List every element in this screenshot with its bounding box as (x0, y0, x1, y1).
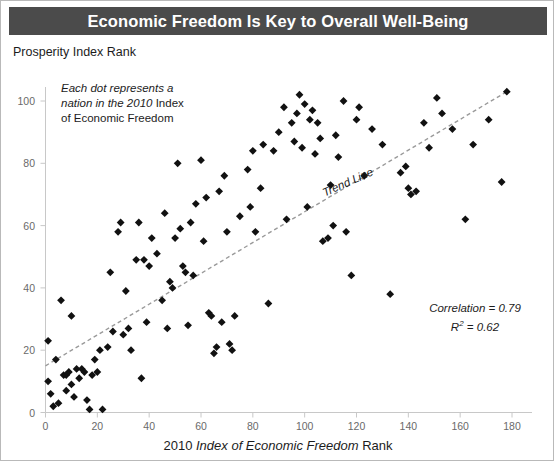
data-point (215, 187, 223, 195)
data-point (288, 119, 296, 127)
data-point (187, 219, 195, 227)
data-point (386, 290, 394, 298)
data-point (137, 374, 145, 382)
data-point (171, 234, 179, 242)
data-point (223, 228, 231, 236)
data-point (397, 169, 405, 177)
data-point (96, 346, 104, 354)
data-point (135, 219, 143, 227)
data-point (280, 103, 288, 111)
data-point (438, 110, 446, 118)
x-axis-label: 2010 Index of Economic Freedom Rank (1, 438, 554, 453)
x-axis-label-italic: Index of Economic Freedom (196, 438, 359, 453)
data-point (503, 88, 511, 96)
x-tick-label: 0 (43, 420, 49, 432)
x-tick-label: 100 (296, 420, 314, 432)
r-squared-value: R2 = 0.62 (410, 316, 540, 335)
data-point (148, 234, 156, 242)
data-point (498, 178, 506, 186)
data-point (236, 212, 244, 220)
x-tick-label: 40 (143, 420, 155, 432)
data-point (68, 312, 76, 320)
y-tick-label: 100 (17, 95, 35, 107)
data-point (298, 144, 306, 152)
data-point (433, 94, 441, 102)
axis-group (46, 87, 533, 413)
data-point (246, 203, 254, 211)
data-point (106, 268, 114, 276)
data-point (259, 141, 267, 149)
data-point (174, 159, 182, 167)
data-point (47, 390, 55, 398)
data-point (283, 215, 291, 223)
data-point (189, 272, 197, 280)
annotation-line-1: Each dot represents a (61, 81, 184, 96)
data-point (140, 256, 148, 264)
data-point (125, 324, 133, 332)
y-tick-label: 60 (23, 220, 35, 232)
x-axis-label-post: Rank (359, 438, 393, 453)
data-point (176, 225, 184, 233)
x-axis-label-pre: 2010 (163, 438, 196, 453)
x-tick-label: 160 (451, 420, 469, 432)
data-point (347, 272, 355, 280)
data-point (220, 172, 228, 180)
y-tick-label: 0 (29, 407, 35, 419)
y-tick-label: 20 (23, 344, 35, 356)
data-point (461, 215, 469, 223)
y-tick-label: 80 (23, 157, 35, 169)
data-point (425, 144, 433, 152)
data-point (264, 300, 272, 308)
tick-group: 020406080100120140160180020406080100 (17, 95, 520, 432)
data-point (303, 203, 311, 211)
annotation-line-3: of Economic Freedom (61, 111, 184, 126)
data-point (485, 116, 493, 124)
data-point (104, 343, 112, 351)
data-point (192, 200, 200, 208)
data-point (68, 381, 76, 389)
data-point (257, 184, 265, 192)
x-tick-label: 20 (91, 420, 103, 432)
data-point (293, 110, 301, 118)
data-point (200, 237, 208, 245)
data-point (252, 228, 260, 236)
data-point (145, 262, 153, 270)
data-point (296, 91, 304, 99)
data-point (342, 228, 350, 236)
x-tick-label: 80 (247, 420, 259, 432)
statistics-annotation: Correlation = 0.79 R2 = 0.62 (410, 301, 540, 335)
annotation-line-2-italic: nation in the 2010 (61, 97, 156, 109)
data-point (309, 106, 317, 114)
chart-annotation: Each dot represents a nation in the 2010… (61, 81, 184, 126)
data-point (420, 119, 428, 127)
data-point (184, 321, 192, 329)
data-point-group (44, 88, 511, 414)
data-point (290, 138, 298, 146)
correlation-value: Correlation = 0.79 (410, 301, 540, 316)
data-point (143, 318, 151, 326)
r-squared-label: R (451, 321, 459, 333)
data-point (109, 328, 117, 336)
data-point (340, 97, 348, 105)
data-point (379, 141, 387, 149)
data-point (329, 222, 337, 230)
data-point (117, 219, 125, 227)
data-point (306, 116, 314, 124)
data-point (153, 250, 161, 258)
scatter-plot: 020406080100120140160180020406080100 (1, 1, 554, 461)
data-point (270, 147, 278, 155)
data-point (244, 166, 252, 174)
data-point (75, 374, 83, 382)
data-point (127, 346, 135, 354)
data-point (334, 153, 342, 161)
data-point (469, 141, 477, 149)
x-tick-label: 60 (195, 420, 207, 432)
data-point (311, 150, 319, 158)
data-point (83, 396, 91, 404)
data-point (355, 103, 363, 111)
data-point (197, 156, 205, 164)
annotation-line-2: nation in the 2010 Index (61, 96, 184, 111)
data-point (218, 318, 226, 326)
data-point (314, 119, 322, 127)
data-point (132, 256, 140, 264)
